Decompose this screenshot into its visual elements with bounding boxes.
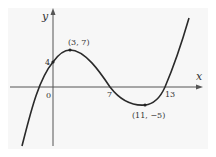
y-axis-arrow-icon xyxy=(51,8,56,15)
y-tick-4-label: 4 xyxy=(45,58,50,67)
cubic-curve xyxy=(22,18,189,146)
y-axis-label: y xyxy=(41,10,49,23)
max-point-label: (3, 7) xyxy=(68,38,90,47)
x-axis-arrow-icon xyxy=(196,85,203,90)
maximum-point xyxy=(68,48,71,51)
chart-svg: x y 0 7 13 4 (3, 7) (11, −5) xyxy=(0,0,216,157)
x-axis-label: x xyxy=(196,70,203,83)
chart-frame: x y 0 7 13 4 (3, 7) (11, −5) xyxy=(0,0,216,157)
x-tick-13-label: 13 xyxy=(165,90,175,99)
y-intercept-point xyxy=(51,60,54,63)
minimum-point xyxy=(143,103,146,106)
x-tick-7-label: 7 xyxy=(107,90,112,99)
min-point-label: (11, −5) xyxy=(132,111,165,120)
origin-label: 0 xyxy=(46,91,51,100)
